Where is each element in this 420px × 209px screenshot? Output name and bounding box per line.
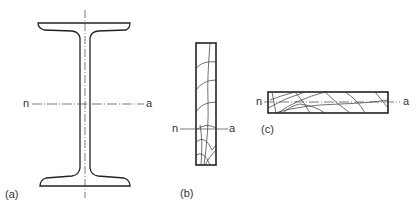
caption-b: (b) <box>180 188 193 199</box>
axis-label-a-b: a <box>229 123 235 134</box>
axis-label-n-b: n <box>172 123 178 134</box>
axis-label-a-a: a <box>146 98 152 109</box>
wide-specimen <box>264 92 400 113</box>
caption-c: (c) <box>261 124 274 135</box>
diagram-canvas <box>0 0 420 209</box>
tall-specimen <box>180 43 228 165</box>
axis-label-n-c: n <box>256 96 262 107</box>
axis-label-n-a: n <box>23 98 29 109</box>
caption-a: (a) <box>5 189 18 200</box>
i-beam-section <box>38 23 130 186</box>
axis-label-a-c: a <box>403 96 409 107</box>
